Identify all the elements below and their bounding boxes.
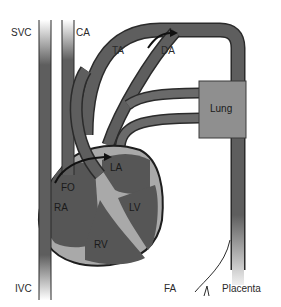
- label-fa: FA: [164, 284, 176, 294]
- pulmonary-vein: [120, 118, 200, 150]
- label-ra: RA: [54, 203, 68, 213]
- vena-cava: [39, 20, 51, 300]
- label-fo: FO: [61, 183, 75, 193]
- pulmonary-artery: [128, 93, 200, 105]
- label-la: LA: [110, 163, 122, 173]
- label-placenta: Placenta: [222, 284, 261, 294]
- label-ca: CA: [76, 28, 90, 38]
- label-svc: SVC: [11, 28, 32, 38]
- label-lung: Lung: [210, 104, 232, 114]
- label-rv: RV: [94, 240, 108, 250]
- label-da: DA: [161, 46, 175, 56]
- label-lv: LV: [129, 203, 141, 213]
- fetal-circulation-diagram: [0, 0, 281, 307]
- label-ta: TA: [112, 46, 124, 56]
- label-ivc: IVC: [15, 284, 32, 294]
